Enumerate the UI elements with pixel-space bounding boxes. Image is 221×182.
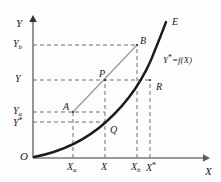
curve-equation-rest: =f(X) (172, 55, 192, 65)
x-tick-label-Xb: Xb (131, 162, 141, 174)
marker-R (149, 79, 151, 81)
y-tick-Ystar-sup: * (19, 116, 23, 125)
point-label-A: A (63, 102, 69, 112)
x-tick-Xb-sub: b (137, 166, 141, 174)
point-label-P: P (99, 69, 105, 79)
origin-label: O (20, 151, 28, 162)
point-label-B: B (140, 36, 146, 46)
x-tick-Xa-sub: a (73, 166, 77, 174)
curve-endpoint-label-E: E (172, 17, 178, 27)
point-label-R: R (156, 82, 162, 92)
y-tick-label-Yb: Yb (13, 39, 22, 51)
marker-P (104, 79, 106, 81)
curve-equation-label: Y*=f(X) (163, 54, 192, 65)
marker-B (136, 44, 138, 46)
y-axis-label: Y (16, 18, 22, 29)
x-tick-X-main: X (101, 161, 107, 172)
y-tick-label-Y: Y (15, 74, 21, 84)
y-axis (29, 15, 37, 158)
economic-diagram-figure: Y X O Yb Y Ya Y* Xa X Xb X* A B P Q R E … (0, 0, 221, 182)
y-tick-Y-main: Y (15, 73, 21, 84)
marker-Q (104, 121, 106, 123)
x-tick-label-Xstar: X* (146, 162, 156, 173)
diagram-canvas (0, 0, 221, 182)
function-curve (34, 22, 166, 157)
y-tick-label-Ystar: Y* (13, 117, 23, 128)
x-tick-label-Xa: Xa (67, 162, 77, 174)
marker-A (72, 111, 74, 113)
x-tick-label-X: X (101, 162, 107, 172)
x-axis-label: X (205, 166, 212, 177)
x-axis (33, 154, 210, 162)
point-label-Q: Q (110, 125, 117, 135)
y-tick-Yb-sub: b (19, 43, 23, 51)
vertical-guide-lines (73, 45, 150, 158)
x-tick-Xstar-sup: * (152, 161, 156, 170)
horizontal-guide-lines (33, 45, 150, 122)
